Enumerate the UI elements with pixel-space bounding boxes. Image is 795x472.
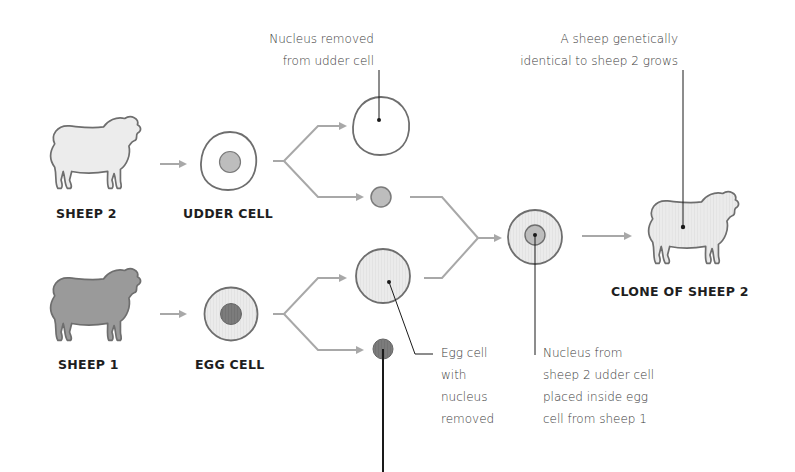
egg-nucleus — [221, 304, 242, 325]
clone-sheep-icon — [649, 192, 739, 264]
arrow-udder-split-top — [273, 126, 345, 161]
label-sheep-2: SHEEP 2 — [56, 206, 117, 221]
udder-nucleus — [220, 152, 241, 173]
merge-line-top — [410, 197, 478, 238]
label-clone: CLONE OF SHEEP 2 — [611, 284, 749, 299]
arrow-udder-split-bottom — [284, 161, 362, 197]
note-nucleus-placed: Nucleus from sheep 2 udder cell placed i… — [543, 342, 654, 430]
label-egg-cell: EGG CELL — [195, 357, 264, 372]
note-genetically-identical: A sheep genetically identical to sheep 2… — [480, 28, 678, 72]
note-egg-removed: Egg cell with nucleus removed — [441, 342, 494, 430]
arrow-egg-split-bottom — [284, 314, 362, 350]
merge-line-bottom — [424, 238, 478, 278]
empty-udder-cell — [353, 97, 409, 155]
note-nucleus-removed: Nucleus removed from udder cell — [230, 28, 374, 72]
label-udder-cell: UDDER CELL — [183, 206, 273, 221]
sheep-1-icon — [51, 269, 141, 341]
arrow-egg-split-top — [273, 278, 345, 314]
udder-nucleus-extracted — [371, 187, 391, 207]
label-sheep-1: SHEEP 1 — [58, 357, 119, 372]
enucleated-egg-cell — [356, 249, 410, 303]
sheep-2-icon — [51, 117, 141, 189]
